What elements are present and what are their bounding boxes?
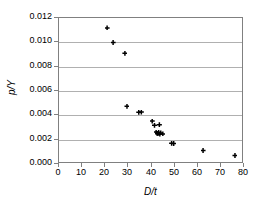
scatter-chart: 0.0000.0020.0040.0060.0080.0100.012 0102…	[0, 0, 263, 209]
y-axis-tick-label: 0.010	[4, 36, 52, 45]
data-point	[111, 40, 116, 45]
gridline	[59, 140, 242, 141]
y-axis-tick-label: 0.004	[4, 109, 52, 118]
gridline	[59, 42, 242, 43]
x-axis-title: D/t	[58, 186, 243, 197]
gridline	[59, 115, 242, 116]
data-point	[232, 153, 237, 158]
gridline	[59, 91, 242, 92]
plot-area	[58, 17, 243, 163]
y-axis-tick-label: 0.000	[4, 158, 52, 167]
y-axis-title: p/Y	[6, 68, 17, 108]
data-point	[122, 51, 127, 56]
x-axis-tick-label: 80	[230, 168, 256, 177]
data-point	[157, 122, 162, 127]
data-point	[124, 104, 129, 109]
y-axis-tick-label: 0.012	[4, 12, 52, 21]
data-point	[201, 148, 206, 153]
gridline	[59, 67, 242, 68]
x-axis-tick-label: 30	[114, 168, 140, 177]
data-point	[105, 25, 110, 30]
y-axis-tick-label: 0.002	[4, 134, 52, 143]
data-point	[152, 123, 157, 128]
data-point	[139, 110, 144, 115]
